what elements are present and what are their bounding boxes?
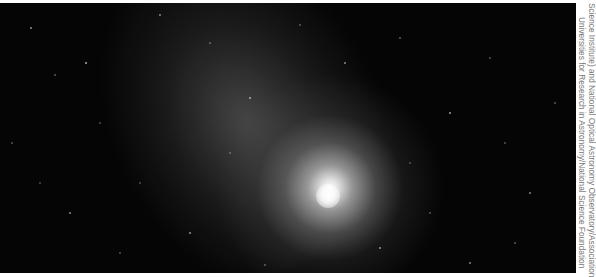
image-credit-text: Science Institute) and National Optical … (576, 0, 596, 277)
credit-line-2: Universities for Research in Astronomy/N… (577, 3, 587, 277)
credit-line-1: Science Institute) and National Optical … (587, 3, 596, 277)
comet-photo (0, 3, 576, 273)
image-credit: Science Institute) and National Optical … (576, 0, 596, 277)
star-field (0, 3, 576, 273)
